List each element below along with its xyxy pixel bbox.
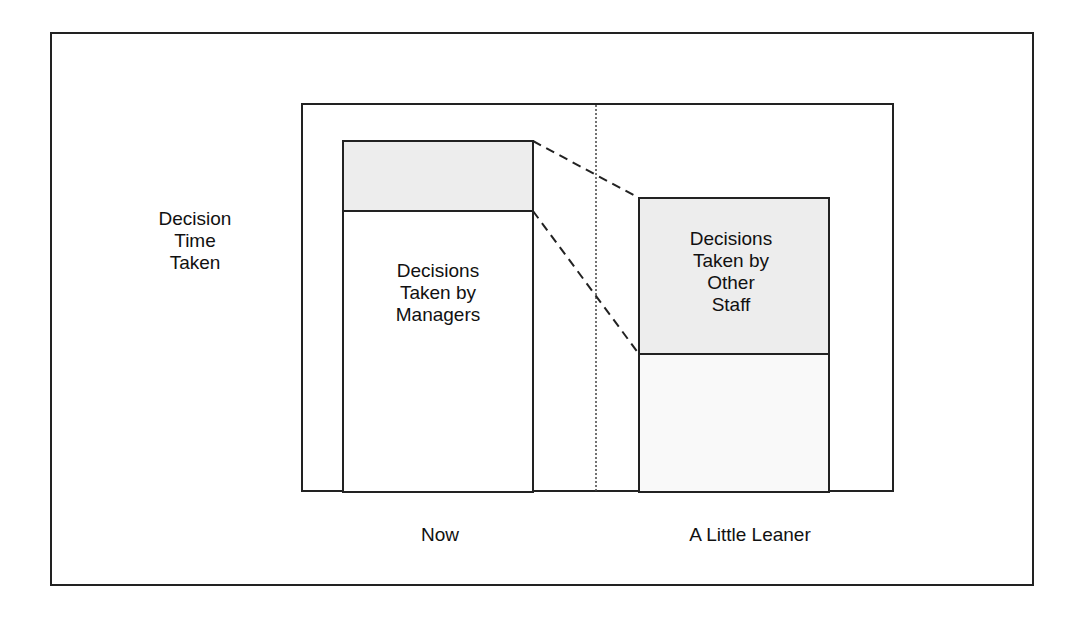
label-line: Staff bbox=[621, 294, 841, 316]
connector-top bbox=[533, 141, 639, 198]
now-other-staff-segment bbox=[343, 141, 533, 211]
now-managers-segment bbox=[343, 211, 533, 492]
y-label-line: Taken bbox=[135, 252, 255, 274]
label-line: Decisions bbox=[328, 260, 548, 282]
label-line: Taken by bbox=[328, 282, 548, 304]
y-axis-label: Decision Time Taken bbox=[135, 208, 255, 274]
y-label-line: Time bbox=[135, 230, 255, 252]
label-line: Other bbox=[621, 272, 841, 294]
y-label-line: Decision bbox=[135, 208, 255, 230]
category-label-now: Now bbox=[380, 524, 500, 546]
other-staff-label: Decisions Taken by Other Staff bbox=[621, 228, 841, 316]
category-label-leaner: A Little Leaner bbox=[640, 524, 860, 546]
label-line: Taken by bbox=[621, 250, 841, 272]
managers-label: Decisions Taken by Managers bbox=[328, 260, 548, 326]
label-line: Managers bbox=[328, 304, 548, 326]
leaner-managers-segment bbox=[639, 354, 829, 492]
label-line: Decisions bbox=[621, 228, 841, 250]
